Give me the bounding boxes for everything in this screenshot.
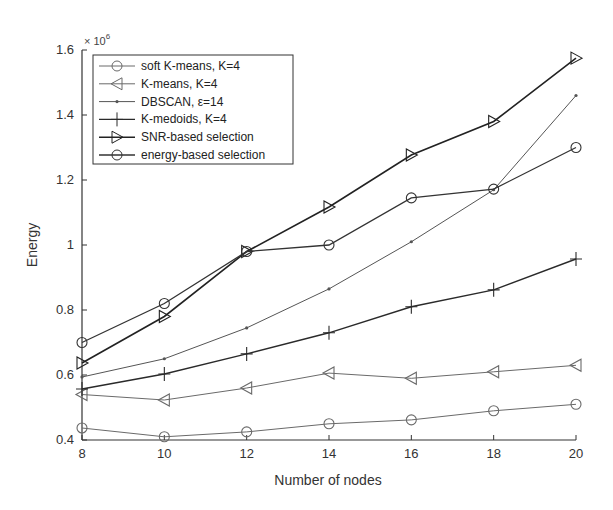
legend-label: K-means, K=4 [141, 77, 218, 91]
y-axis-label: Energy [24, 223, 40, 267]
x-tick-label: 16 [404, 446, 418, 461]
line-chart: 0.40.60.811.21.41.68101214161820 soft K-… [0, 0, 613, 510]
point-marker-icon [245, 326, 248, 329]
series-5 [77, 143, 581, 348]
legend-label: energy-based selection [141, 148, 265, 162]
plus-marker-icon [570, 252, 582, 266]
series-line [82, 148, 576, 343]
point-marker-icon [163, 357, 166, 360]
plus-marker-icon [488, 283, 500, 297]
x-axis-label: Number of nodes [274, 472, 381, 488]
plus-marker-icon [241, 347, 253, 361]
point-marker-icon [574, 94, 577, 97]
y-tick-label: 0.4 [56, 432, 74, 447]
x-tick-label: 10 [157, 446, 171, 461]
x-tick-label: 8 [78, 446, 85, 461]
legend-label: SNR-based selection [141, 130, 254, 144]
y-tick-label: 1.6 [56, 42, 74, 57]
series-1 [76, 359, 581, 406]
series-line [82, 365, 576, 400]
legend: soft K-means, K=4K-means, K=4DBSCAN, ε=1… [93, 55, 293, 164]
point-marker-icon [327, 287, 330, 290]
y-tick-label: 1.4 [56, 107, 74, 122]
y-tick-label: 1 [67, 237, 74, 252]
plus-marker-icon [323, 326, 335, 340]
point-marker-icon [410, 240, 413, 243]
y-tick-label: 0.8 [56, 302, 74, 317]
x-tick-label: 18 [486, 446, 500, 461]
triangle-right-marker-icon [571, 52, 582, 64]
legend-label: DBSCAN, ε=14 [141, 95, 224, 109]
y-multiplier-base: × 10 [84, 35, 106, 47]
plus-marker-icon [405, 300, 417, 314]
plus-marker-icon [158, 367, 170, 381]
x-tick-label: 12 [239, 446, 253, 461]
legend-label: soft K-means, K=4 [141, 59, 240, 73]
point-marker-icon [80, 375, 83, 378]
point-marker-icon [115, 100, 118, 103]
y-tick-label: 0.6 [56, 367, 74, 382]
x-tick-label: 14 [322, 446, 336, 461]
y-multiplier: × 106 [84, 32, 111, 47]
y-tick-label: 1.2 [56, 172, 74, 187]
y-multiplier-exp: 6 [106, 32, 111, 41]
x-tick-label: 20 [569, 446, 583, 461]
legend-label: K-medoids, K=4 [141, 112, 227, 126]
series-line [82, 404, 576, 437]
